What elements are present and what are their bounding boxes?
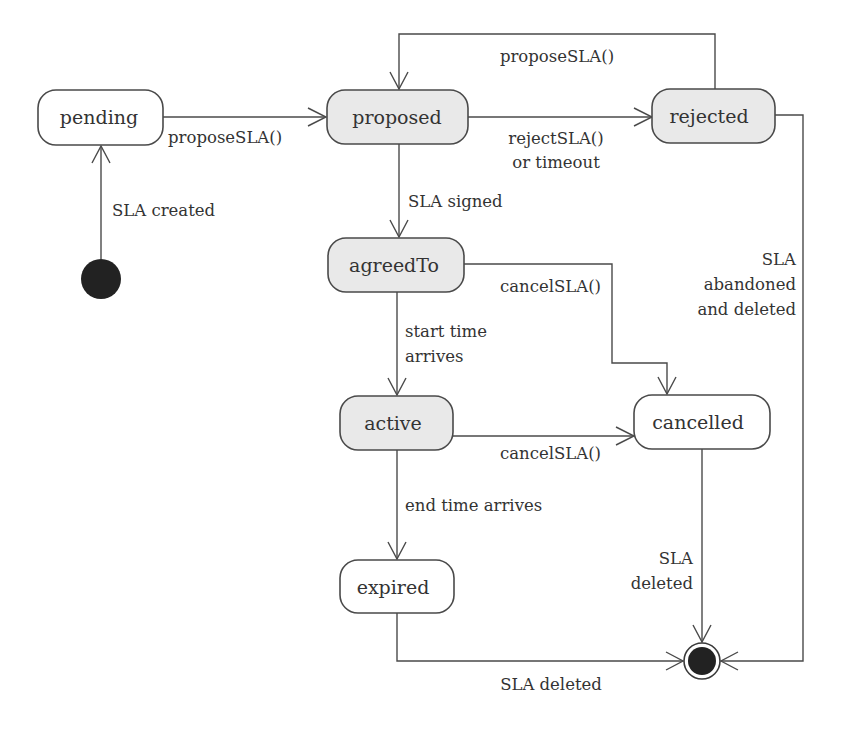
initial-node-icon: [81, 259, 121, 299]
state-label-cancelled: cancelled: [652, 411, 744, 433]
edge-label-delete-expired: SLA deleted: [500, 675, 602, 694]
state-label-rejected: rejected: [669, 105, 748, 127]
state-label-pending: pending: [60, 106, 138, 128]
edge-label-sla-created: SLA created: [112, 201, 216, 220]
state-rejected: rejected: [652, 89, 775, 143]
edge-label-reject-line1: rejectSLA(): [508, 129, 603, 148]
edge-label-sla-signed: SLA signed: [408, 192, 503, 211]
state-label-agreed-to: agreedTo: [349, 254, 439, 276]
edge-label-delete-cancelled-line2: deleted: [631, 574, 694, 593]
edge-label-end-time: end time arrives: [405, 496, 542, 515]
state-label-proposed: proposed: [352, 106, 441, 128]
edge-label-cancel-agreed: cancelSLA(): [500, 277, 601, 296]
state-label-active: active: [364, 412, 422, 434]
edge-label-abandoned-line2: abandoned: [704, 275, 797, 294]
transition-end-time: end time arrives: [388, 450, 542, 559]
transition-sla-abandoned: SLA abandoned and deleted: [697, 115, 803, 670]
state-agreed-to: agreedTo: [328, 238, 464, 292]
edge-label-start-line1: start time: [405, 322, 487, 341]
state-active: active: [340, 396, 453, 450]
transition-delete-cancelled: SLA deleted: [631, 449, 711, 642]
final-node-icon: [684, 643, 720, 679]
edge-label-reject-line2: or timeout: [512, 153, 600, 172]
state-cancelled: cancelled: [634, 395, 770, 449]
sla-state-diagram: SLA created proposeSLA() rejectSLA() or …: [0, 0, 844, 730]
edge-label-propose-sla: proposeSLA(): [168, 128, 282, 147]
state-proposed: proposed: [327, 90, 468, 144]
edge-label-abandoned-line1: SLA: [762, 250, 797, 269]
edge-label-delete-cancelled-line1: SLA: [659, 549, 694, 568]
transition-start-time: start time arrives: [388, 292, 487, 395]
edge-label-start-line2: arrives: [405, 347, 463, 366]
state-expired: expired: [340, 560, 454, 613]
transition-reject-sla: rejectSLA() or timeout: [468, 108, 652, 172]
transition-sla-signed: SLA signed: [390, 144, 503, 237]
state-pending: pending: [38, 90, 163, 145]
transition-delete-expired: SLA deleted: [397, 613, 683, 694]
edge-label-abandoned-line3: and deleted: [697, 300, 796, 319]
transition-propose-sla: proposeSLA(): [163, 108, 326, 147]
state-label-expired: expired: [357, 576, 430, 598]
edge-label-repropose-sla: proposeSLA(): [500, 47, 614, 66]
transition-sla-created: SLA created: [92, 146, 216, 259]
transition-repropose-sla: proposeSLA(): [390, 34, 715, 89]
transition-cancel-active: cancelSLA(): [453, 427, 634, 463]
transition-cancel-agreed: cancelSLA(): [464, 264, 676, 394]
edge-label-cancel-active: cancelSLA(): [500, 444, 601, 463]
